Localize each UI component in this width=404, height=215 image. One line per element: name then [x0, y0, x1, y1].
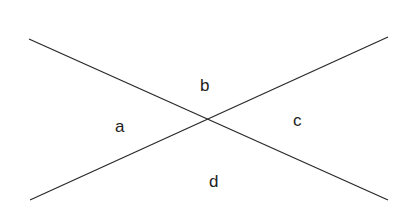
- angle-label-d: d: [209, 172, 218, 191]
- angle-label-c: c: [293, 111, 302, 130]
- angle-label-a: a: [115, 117, 125, 136]
- angle-label-b: b: [200, 76, 209, 95]
- angle-diagram: a b c d: [0, 0, 404, 215]
